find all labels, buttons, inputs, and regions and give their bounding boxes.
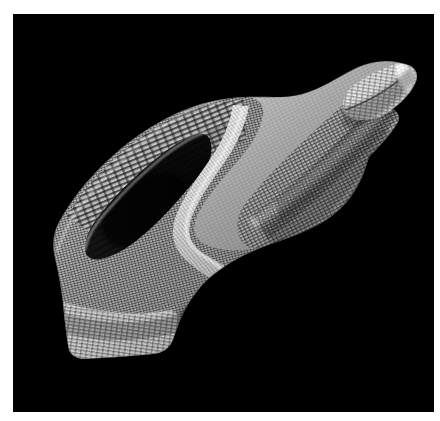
3d-surface-render [13,14,434,412]
render-canvas [13,14,434,412]
render-background [13,14,434,412]
figure-page [0,0,440,421]
